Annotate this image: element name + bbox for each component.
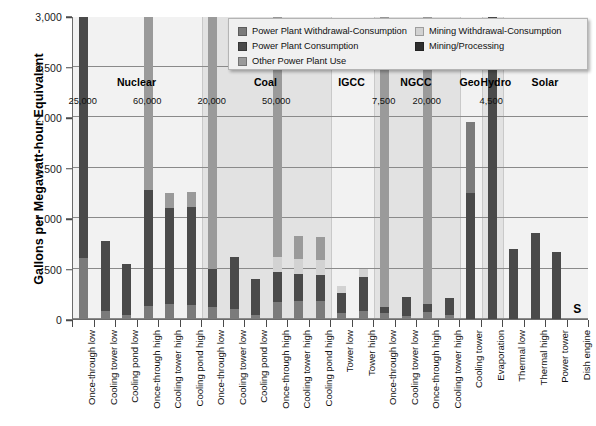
x-axis-tick-mark — [373, 320, 374, 327]
y-axis: Gallons per Megawatt-hour Equivalent 050… — [0, 17, 72, 320]
x-axis-label: Cooling pond low — [258, 330, 269, 403]
bar[interactable] — [187, 192, 196, 319]
legend-swatch — [415, 42, 424, 51]
bar-segment — [445, 315, 454, 319]
bar-segment — [79, 258, 88, 319]
bar[interactable] — [402, 297, 411, 319]
x-axis-tick-mark — [244, 320, 245, 327]
bar-segment — [359, 269, 368, 277]
bar-segment — [509, 249, 518, 319]
bar[interactable] — [466, 122, 475, 319]
x-axis: Once-through lowCooling tower lowCooling… — [72, 320, 588, 426]
bar-segment — [423, 312, 432, 319]
bar-segment — [316, 260, 325, 275]
bar[interactable] — [316, 237, 325, 319]
bar[interactable] — [122, 264, 131, 319]
bar[interactable] — [79, 17, 88, 319]
x-axis-label: Once-through low — [86, 330, 97, 405]
y-axis-tick-label: 1,500 — [35, 163, 62, 175]
bar-segment — [230, 309, 239, 319]
chart-container: Gallons per Megawatt-hour Equivalent 050… — [0, 0, 596, 426]
bar[interactable] — [101, 241, 110, 319]
bar[interactable] — [552, 252, 561, 319]
bar-segment — [208, 269, 217, 307]
x-axis-tick-mark — [137, 320, 138, 327]
x-axis-label: Power tower — [559, 330, 570, 383]
bar-segment — [316, 301, 325, 319]
legend-item: Power Plant Withdrawal-Consumption — [238, 24, 407, 38]
bar[interactable] — [445, 298, 454, 319]
legend-swatch — [238, 42, 247, 51]
overflow-value-label: 25,000 — [55, 96, 111, 106]
x-axis-tick-mark — [266, 320, 267, 327]
legend-label: Power Plant Consumption — [252, 41, 358, 51]
bar-segment — [402, 297, 411, 316]
x-axis-label: Cooling tower low — [108, 330, 119, 405]
bar[interactable] — [337, 286, 346, 319]
legend-swatch — [415, 27, 424, 36]
bar[interactable] — [144, 17, 153, 319]
y-axis-tick-label: 2,000 — [35, 112, 62, 124]
bar-segment — [273, 257, 282, 271]
group-separator — [202, 17, 203, 319]
bar-segment — [101, 241, 110, 311]
x-axis-label: Cooling pond high — [323, 330, 334, 407]
x-axis-tick-mark — [545, 320, 546, 327]
group-header-solar: Solar — [502, 76, 588, 88]
overflow-value-label: 60,000 — [119, 96, 175, 106]
bar[interactable] — [509, 249, 518, 319]
bar-segment — [273, 272, 282, 302]
bar-segment — [79, 17, 88, 258]
overflow-value-label: 4,500 — [463, 96, 519, 106]
x-axis-tick-mark — [459, 320, 460, 327]
y-axis-tick-label: 0 — [56, 314, 62, 326]
bar-segment — [402, 316, 411, 319]
bar[interactable] — [294, 236, 303, 319]
group-header-coal: Coal — [201, 76, 330, 88]
bar-segment — [552, 252, 561, 319]
group-header-geo: Geo — [459, 76, 481, 88]
bar-segment — [294, 274, 303, 301]
bar-segment — [273, 302, 282, 319]
x-axis-tick-mark — [567, 320, 568, 327]
bar[interactable] — [251, 279, 260, 319]
legend-item: Other Power Plant Use — [238, 54, 407, 68]
bar[interactable] — [531, 233, 540, 319]
bar-segment — [294, 301, 303, 319]
bar-segment — [230, 257, 239, 309]
x-axis-label: Once-through high — [151, 330, 162, 409]
bar-segment — [531, 233, 540, 319]
legend-item: Mining Withdrawal-Consumption — [415, 24, 561, 38]
x-axis-tick-mark — [502, 320, 503, 327]
legend-label: Other Power Plant Use — [252, 56, 346, 66]
x-axis-label: Cooling pond high — [194, 330, 205, 407]
bar-segment — [359, 277, 368, 311]
bar[interactable] — [359, 269, 368, 320]
y-axis-tick-label: 2,500 — [35, 62, 62, 74]
x-axis-tick-mark — [201, 320, 202, 327]
bar-segment — [466, 122, 475, 193]
bar-segment — [337, 286, 346, 294]
x-axis-tick-mark — [115, 320, 116, 327]
bar-segment — [316, 237, 325, 260]
bar-segment — [165, 304, 174, 319]
bar[interactable] — [230, 257, 239, 319]
chart-legend: Power Plant Withdrawal-ConsumptionPower … — [228, 18, 588, 70]
bar-segment — [165, 193, 174, 208]
bar-segment — [251, 315, 260, 319]
x-axis-label: Cooling tower high — [301, 330, 312, 409]
bar-segment — [380, 313, 389, 319]
bar-segment — [187, 192, 196, 207]
bar-segment — [187, 305, 196, 319]
x-axis-tick-mark — [158, 320, 159, 327]
x-axis-label: Cooling tower high — [452, 330, 463, 409]
y-axis-tick-label: 3,000 — [35, 11, 62, 23]
bar[interactable] — [208, 17, 217, 319]
x-axis-tick-mark — [94, 320, 95, 327]
x-axis-tick-mark — [438, 320, 439, 327]
x-axis-label: Thermal high — [538, 330, 549, 385]
y-axis-tick-label: 500 — [44, 264, 62, 276]
bar[interactable] — [165, 193, 174, 319]
bar-segment — [101, 311, 110, 319]
bar-segment — [466, 193, 475, 319]
